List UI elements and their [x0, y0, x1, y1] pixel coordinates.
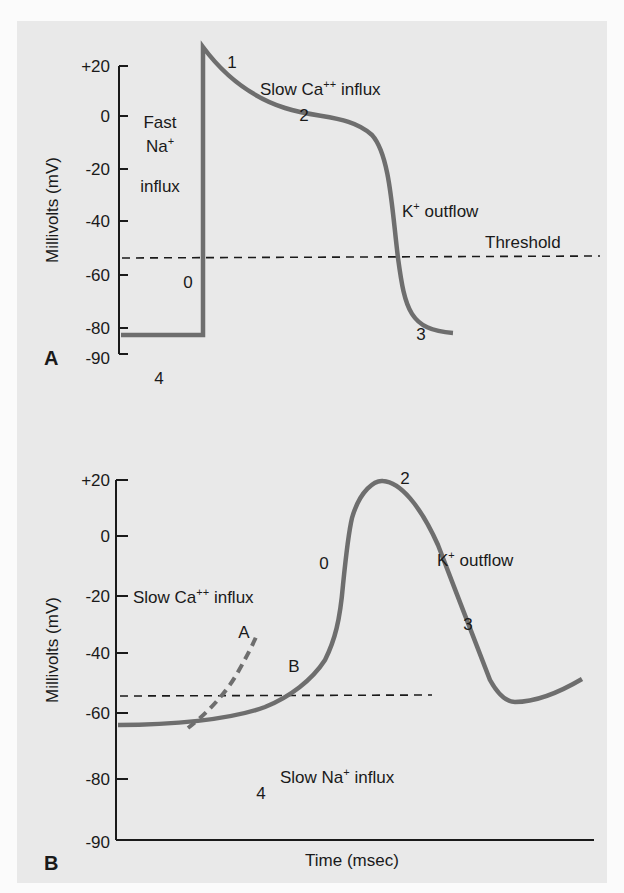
- panel-a-y-axis-label: Millivolts (mV): [43, 157, 62, 263]
- panel-b-tick-label: -90: [85, 833, 110, 852]
- panel-a: +20 0 -20 -40 -60 -80 -90 Millivolts (mV…: [43, 47, 600, 388]
- panel-a-tick-label: +20: [81, 57, 110, 76]
- panel-a-slow-ca-label: Slow Ca++ influx: [260, 78, 381, 99]
- action-potential-figure: +20 0 -20 -40 -60 -80 -90 Millivolts (mV…: [0, 0, 624, 893]
- panel-b-tick-label: -40: [85, 644, 110, 663]
- panel-a-tick-label: 0: [101, 107, 110, 126]
- panel-a-threshold-line: [122, 256, 600, 258]
- panel-a-fast-na-label: Na+: [146, 135, 174, 156]
- panel-b-phase-2-label: 2: [400, 469, 409, 488]
- panel-a-y-ticks: [119, 66, 128, 354]
- panel-a-tick-label: -40: [85, 212, 110, 231]
- panel-a-tick-label: -90: [85, 349, 110, 368]
- panel-b-tick-label: -80: [85, 770, 110, 789]
- panel-a-tick-label: -20: [85, 160, 110, 179]
- panel-b-tick-label: +20: [81, 471, 110, 490]
- panel-a-k-outflow-label: K+ outflow: [402, 200, 479, 221]
- panel-b-phase-3-label: 3: [463, 615, 472, 634]
- panel-a-phase-2-label: 2: [299, 106, 308, 125]
- panel-b-letter: B: [44, 852, 58, 874]
- panel-b-tick-label: -20: [85, 587, 110, 606]
- panel-b-slow-na-label: Slow Na+ influx: [280, 766, 395, 787]
- panel-b-x-axis-label: Time (msec): [305, 851, 399, 870]
- panel-b-y-ticks: [116, 480, 128, 779]
- panel-b-phase-0-label: 0: [319, 554, 328, 573]
- panel-b-phase-4-label: 4: [256, 784, 265, 803]
- panel-b-y-axis-label: Millivolts (mV): [43, 597, 62, 703]
- panel-a-phase-4-label: 4: [154, 369, 163, 388]
- panel-a-fast-na-label: influx: [140, 177, 180, 196]
- panel-a-letter: A: [44, 347, 58, 369]
- panel-a-phase-0-label: 0: [183, 273, 192, 292]
- panel-b-curve-b-label: B: [288, 657, 299, 676]
- panel-b: +20 0 -20 -40 -60 -80 -90 Millivolts (mV…: [43, 469, 594, 874]
- panel-a-phase-3-label: 3: [416, 325, 425, 344]
- panel-b-threshold-line: [120, 695, 432, 696]
- panel-b-curve-a-label: A: [238, 623, 250, 642]
- panel-b-slow-ca-label: Slow Ca++ influx: [133, 586, 254, 607]
- panel-a-threshold-label: Threshold: [485, 233, 561, 252]
- panel-a-phase-1-label: 1: [227, 53, 236, 72]
- panel-b-tick-label: -60: [85, 704, 110, 723]
- panel-b-tick-label: 0: [101, 527, 110, 546]
- panel-a-tick-label: -80: [85, 319, 110, 338]
- panel-a-tick-label: -60: [85, 266, 110, 285]
- panel-a-fast-na-label: Fast: [143, 113, 176, 132]
